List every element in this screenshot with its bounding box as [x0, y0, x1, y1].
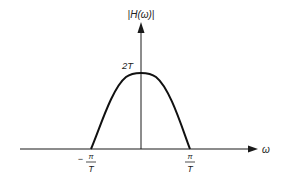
- left-tick-sign: −: [78, 154, 83, 164]
- left-tick-label: − π T: [78, 152, 96, 174]
- x-axis-label: ω: [262, 144, 270, 155]
- magnitude-axis-arrowhead-icon: [138, 22, 145, 33]
- left-tick-denominator: T: [88, 164, 95, 174]
- omega-axis-arrowhead-icon: [248, 146, 258, 153]
- right-tick-numerator: π: [187, 152, 193, 161]
- left-tick-numerator: π: [88, 152, 94, 161]
- magnitude-response-diagram: |H(ω)| 2T ω − π T π T: [0, 0, 285, 184]
- y-axis-label: |H(ω)|: [128, 9, 155, 20]
- peak-label: 2T: [121, 60, 134, 71]
- right-tick-denominator: T: [187, 164, 194, 174]
- right-tick-label: π T: [185, 152, 195, 174]
